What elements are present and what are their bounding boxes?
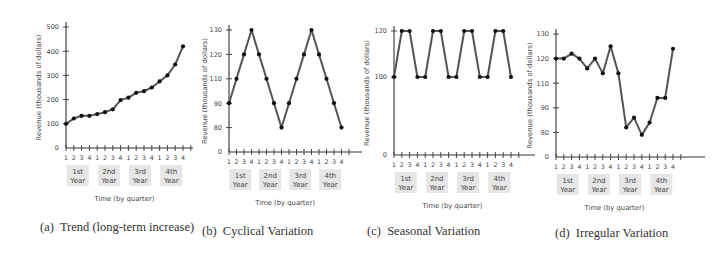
data-point [317,52,321,56]
data-point [415,75,419,79]
year-ordinal: 3rd [624,177,636,185]
quarter-label: 3 [470,161,474,168]
caption-b: (b) Cyclical Variation [202,224,313,239]
year-word: Year [653,186,669,194]
quarter-label: 3 [242,158,246,165]
data-point [87,114,91,118]
caption-letter: (d) [555,226,570,240]
trend-chart: 0100200300400500Revenue (thousands of do… [0,0,180,200]
data-point [80,114,84,118]
year-ordinal: 4th [165,168,177,176]
data-point [150,85,154,89]
data-point [640,133,644,137]
data-point [431,29,435,33]
quarter-label: 2 [624,163,628,170]
data-line [394,31,511,77]
quarter-label: 3 [142,154,146,161]
year-ordinal: 3rd [294,172,306,180]
data-point [72,116,76,120]
caption-text: Seasonal Variation [387,224,480,238]
y-tick-label: 120 [375,27,387,35]
quarter-label: 1 [257,158,261,165]
year-ordinal: 3rd [134,168,146,176]
year-word: Year [69,177,85,185]
quarter-label: 1 [392,161,396,168]
quarter-label: 2 [462,161,466,168]
caption-letter: (a) [40,220,54,234]
quarter-label: 3 [272,158,276,165]
quarter-label: 1 [64,154,68,161]
caption-text: Trend (long-term increase) [60,220,194,234]
data-point [478,75,482,79]
caption-letter: (c) [367,224,381,238]
data-point [111,107,115,111]
data-point [64,122,68,126]
quarter-label: 1 [95,154,99,161]
quarter-label: 4 [339,158,343,165]
data-point [577,57,581,61]
year-box: 4thYear [160,165,182,186]
quarter-label: 1 [454,161,458,168]
quarter-label: 1 [317,158,321,165]
y-axis-label: Revenue (thousands of dollars) [363,40,371,146]
data-point [593,57,597,61]
data-point [648,120,652,124]
quarter-label: 4 [415,161,419,168]
quarter-label: 3 [439,161,443,168]
year-word: Year [292,181,308,189]
year-box: 4thYear [319,169,341,190]
data-point [302,52,306,56]
quarter-label: 3 [332,158,336,165]
chart-panel-a: 0100200300400500Revenue (thousands of do… [0,0,180,254]
quarter-label: 3 [173,154,177,161]
quarter-label: 4 [87,154,91,161]
year-box: 3rdYear [129,165,151,186]
y-tick-label: 120 [537,55,549,63]
data-point [601,71,605,75]
year-word: Year [132,177,148,185]
y-tick-label: 0 [545,153,549,161]
data-point [447,75,451,79]
year-word: Year [460,184,476,192]
year-ordinal: 2nd [430,175,443,183]
y-axis-label: Revenue (thousands of dollars) [201,38,209,144]
data-point [119,98,123,102]
y-tick-label: 110 [537,80,549,88]
data-point [562,57,566,61]
quarter-label: 2 [431,161,435,168]
quarter-label: 2 [294,158,298,165]
y-tick-label: 90 [214,100,222,108]
quarter-label: 3 [80,154,84,161]
quarter-label: 2 [234,158,238,165]
x-axis-label: Time (by quarter) [584,204,645,212]
quarter-label: 4 [609,163,613,170]
data-point [439,29,443,33]
quarter-label: 1 [158,154,162,161]
quarter-label: 2 [493,161,497,168]
data-point [554,57,558,61]
quarter-label: 2 [324,158,328,165]
quarter-label: 2 [72,154,76,161]
quarter-label: 3 [632,163,636,170]
quarter-label: 1 [423,161,427,168]
y-tick-label: 100 [47,120,59,128]
data-point [126,96,130,100]
y-tick-label: 80 [214,124,222,132]
year-box: 4thYear [650,174,672,195]
data-point [272,101,276,105]
data-point [257,52,261,56]
quarter-label: 1 [227,158,231,165]
quarter-label: 1 [585,163,589,170]
y-tick-label: 0 [55,144,59,152]
caption-a: (a) Trend (long-term increase) [40,220,194,235]
data-point [392,75,396,79]
data-point [616,71,620,75]
x-axis-label: Time (by quarter) [254,199,315,207]
quarter-label: 2 [562,163,566,170]
year-word: Year [100,177,116,185]
data-point [509,75,513,79]
year-ordinal: 3rd [462,175,474,183]
data-point [486,75,490,79]
y-tick-label: 400 [47,48,59,56]
data-point [493,29,497,33]
